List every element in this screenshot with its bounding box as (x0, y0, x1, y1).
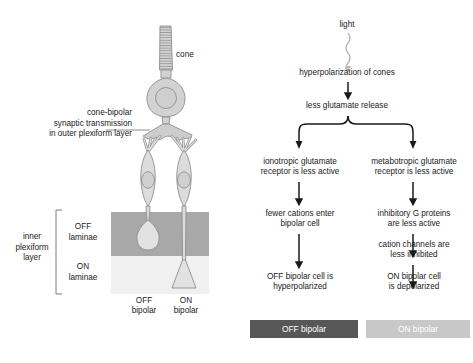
off-bipolar-label: OFF bipolar (126, 296, 162, 317)
on-bipolar-label: ON bipolar (168, 296, 204, 317)
cone-axon (162, 117, 170, 124)
off-bipolar-result-bar: OFF bipolar (250, 320, 358, 338)
off-bipolar-nucleus (142, 172, 155, 188)
on-laminae-label: ON laminae (60, 262, 106, 283)
off-bipolar-cell (137, 136, 160, 250)
flow-hyperpolarization-label: hyperpolarization of cones (282, 68, 412, 78)
diagram-canvas: cone cone-bipolar synaptic transmission … (0, 0, 473, 363)
flow-off-step2-label: fewer cations enter bipolar cell (244, 209, 356, 229)
flow-off-step3-label: OFF bipolar cell is hyperpolarized (244, 272, 356, 292)
cone-cell (143, 26, 192, 140)
branch-split-brace (299, 116, 348, 142)
flow-on-step1-label: metabotropic glutamate receptor is less … (356, 157, 472, 177)
flow-on-step4-label: ON bipolar cell is depolarized (358, 272, 470, 292)
off-laminae-band (111, 212, 209, 256)
inner-plexiform-layer-label: inner plexiform layer (8, 232, 56, 264)
on-bipolar-axon (182, 206, 186, 262)
off-laminae-label: OFF laminae (60, 222, 106, 243)
cone-outer-segment (160, 26, 173, 70)
diagram-vector-layer (0, 0, 473, 363)
branch-right-arrowhead (410, 141, 417, 149)
flow-light-label: light (325, 20, 369, 30)
flow-off-step1-label: ionotropic glutamate receptor is less ac… (242, 157, 358, 177)
flow-on-step3-label: cation channels are less inhibited (358, 240, 470, 260)
flow-on-step2-label: inhibitory G proteins are less active (358, 209, 470, 229)
on-bipolar-result-bar: ON bipolar (366, 320, 470, 338)
on-bipolar-nucleus (178, 172, 191, 188)
flow-less-glutamate-label: less glutamate release (292, 101, 402, 111)
branch-left-arrowhead (296, 141, 303, 149)
cone-label: cone (176, 50, 216, 60)
cone-nucleus (156, 88, 177, 109)
cone-bipolar-synapse-label: cone-bipolar synaptic transmission in ou… (10, 108, 132, 140)
cone-inner-segment (161, 70, 171, 78)
